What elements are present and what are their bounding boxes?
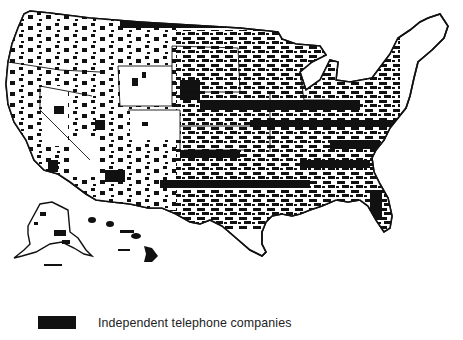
alaska: [14, 202, 92, 266]
legend-label-independent: Independent telephone companies: [98, 315, 291, 330]
hawaii: [88, 217, 158, 262]
legend: Independent telephone companies: [38, 314, 308, 330]
us-map: [0, 0, 463, 280]
contiguous-us: [6, 10, 448, 256]
legend-swatch-independent: [38, 316, 76, 329]
